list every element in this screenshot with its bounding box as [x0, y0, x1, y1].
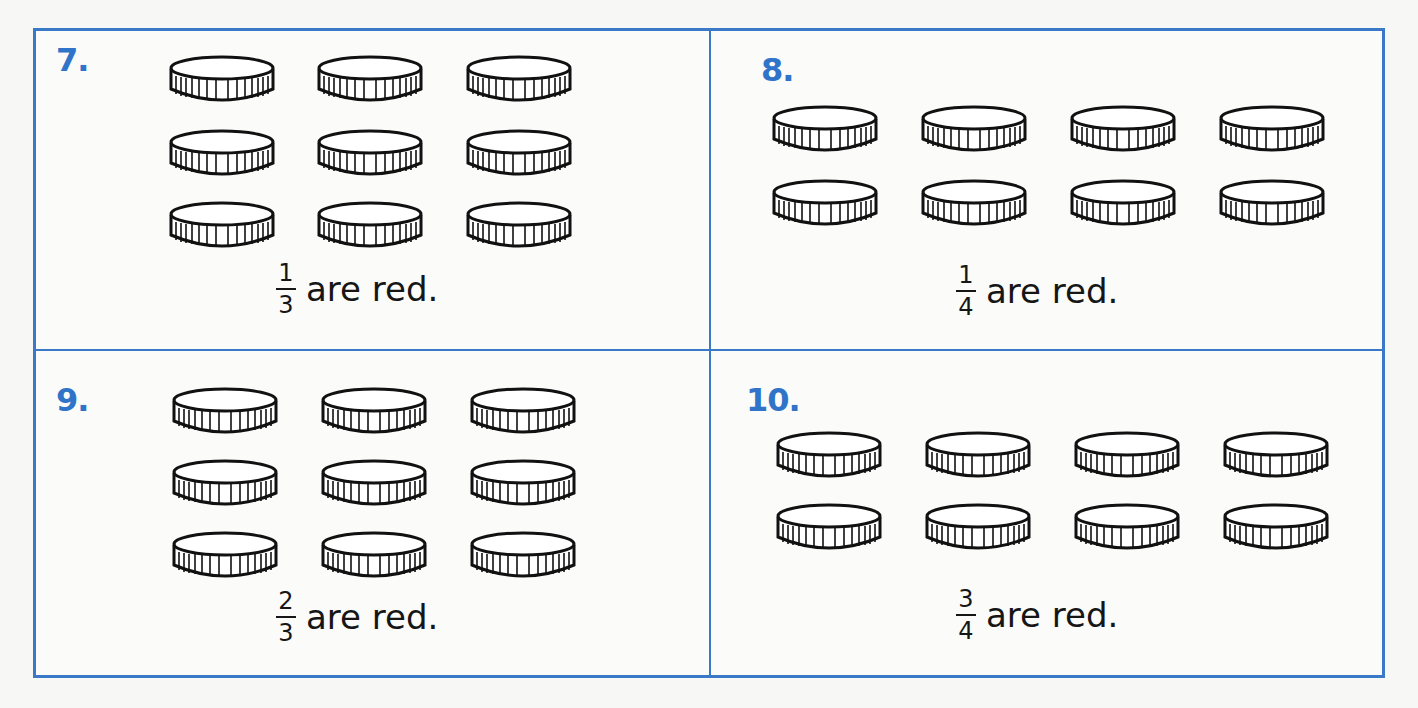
coin-icon: [465, 127, 573, 177]
coin-icon: [469, 457, 577, 507]
fraction: 3 4: [956, 587, 976, 643]
coin-icon: [168, 199, 276, 249]
coin-icon: [320, 385, 428, 435]
worksheet-grid: 7. 1 3 are red. 8.: [33, 28, 1385, 678]
caption-text: are red.: [986, 271, 1118, 311]
fraction-bar: [276, 616, 296, 618]
fraction: 1 3: [276, 261, 296, 317]
caption-text: are red.: [306, 597, 438, 637]
fraction: 2 3: [276, 589, 296, 645]
fraction-caption: 3 4 are red.: [956, 587, 1118, 643]
caption-text: are red.: [986, 595, 1118, 635]
coin-icon: [316, 127, 424, 177]
denominator: 4: [958, 295, 973, 319]
coin-icon: [920, 177, 1028, 227]
coin-icon: [469, 529, 577, 579]
coin-icon: [168, 53, 276, 103]
coin-icon: [469, 385, 577, 435]
numerator: 2: [278, 589, 293, 613]
coin-icon: [320, 529, 428, 579]
numerator: 1: [958, 263, 973, 287]
coin-icon: [924, 501, 1032, 551]
coin-icon: [924, 429, 1032, 479]
coin-icon: [1218, 177, 1326, 227]
fraction-bar: [956, 614, 976, 616]
coin-icon: [1222, 429, 1330, 479]
caption-text: are red.: [306, 269, 438, 309]
numerator: 3: [958, 587, 973, 611]
fraction-caption: 1 3 are red.: [276, 261, 438, 317]
problem-number: 8.: [761, 51, 793, 89]
numerator: 1: [278, 261, 293, 285]
problem-8-panel: 8. 1 4 are red.: [711, 31, 1382, 349]
problem-number: 10.: [746, 381, 800, 419]
coin-icon: [775, 501, 883, 551]
coin-icon: [775, 429, 883, 479]
coin-icon: [771, 103, 879, 153]
coin-icon: [1069, 177, 1177, 227]
coin-icon: [316, 53, 424, 103]
coin-icon: [771, 177, 879, 227]
coin-icon: [1069, 103, 1177, 153]
denominator: 3: [278, 621, 293, 645]
coin-icon: [171, 529, 279, 579]
coin-icon: [320, 457, 428, 507]
coin-icon: [1073, 429, 1181, 479]
problem-7-panel: 7. 1 3 are red.: [36, 31, 709, 349]
coin-icon: [316, 199, 424, 249]
coin-icon: [1222, 501, 1330, 551]
coin-icon: [465, 199, 573, 249]
fraction: 1 4: [956, 263, 976, 319]
coin-icon: [1218, 103, 1326, 153]
problem-number: 9.: [56, 381, 88, 419]
coin-icon: [920, 103, 1028, 153]
problem-10-panel: 10. 3 4 are red.: [711, 351, 1382, 675]
coin-icon: [171, 457, 279, 507]
fraction-bar: [276, 288, 296, 290]
fraction-bar: [956, 290, 976, 292]
denominator: 3: [278, 293, 293, 317]
coin-icon: [465, 53, 573, 103]
coin-icon: [171, 385, 279, 435]
coin-icon: [1073, 501, 1181, 551]
fraction-caption: 2 3 are red.: [276, 589, 438, 645]
fraction-caption: 1 4 are red.: [956, 263, 1118, 319]
coin-icon: [168, 127, 276, 177]
problem-9-panel: 9. 2 3 are red.: [36, 351, 709, 675]
problem-number: 7.: [56, 41, 88, 79]
denominator: 4: [958, 619, 973, 643]
